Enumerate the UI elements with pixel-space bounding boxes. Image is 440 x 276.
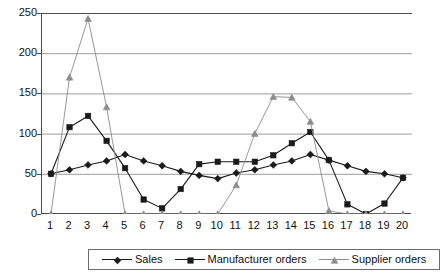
series-line <box>51 19 403 214</box>
y-tick-label-0: 0 <box>3 208 37 219</box>
data-marker-diamond <box>122 151 129 158</box>
data-marker-square <box>187 258 192 263</box>
series-supplier-orders <box>48 15 407 214</box>
data-marker-triangle <box>381 211 388 214</box>
plot-area <box>41 13 411 214</box>
data-marker-square <box>215 159 220 164</box>
y-tick-label-200: 200 <box>3 47 37 58</box>
legend-glyph <box>113 256 122 265</box>
legend-marker-square-icon <box>175 254 205 265</box>
data-marker-triangle <box>196 211 203 214</box>
data-marker-square <box>141 197 146 202</box>
data-marker-diamond <box>307 151 314 158</box>
data-marker-square <box>234 159 239 164</box>
data-marker-square <box>122 165 127 170</box>
data-marker-square <box>67 124 72 129</box>
y-tick-label-100: 100 <box>3 128 37 139</box>
data-marker-diamond <box>196 172 203 179</box>
data-marker-diamond <box>270 162 277 169</box>
series-sales <box>48 151 407 182</box>
legend-label: Sales <box>135 254 163 265</box>
data-marker-triangle <box>103 104 110 110</box>
data-marker-diamond <box>344 162 351 169</box>
y-tick-mark-0 <box>37 214 41 215</box>
legend-label: Manufacturer orders <box>208 254 307 265</box>
legend-label: Supplier orders <box>352 254 427 265</box>
legend-entry-sales: Sales <box>102 254 163 265</box>
data-marker-triangle <box>48 211 55 214</box>
data-marker-diamond <box>114 257 121 264</box>
data-marker-diamond <box>140 158 147 165</box>
data-marker-triangle <box>251 130 258 136</box>
data-marker-square <box>382 201 387 206</box>
y-axis: 050100150200250 <box>0 0 37 276</box>
y-tick-label-50: 50 <box>3 168 37 179</box>
series-canvas <box>42 13 412 214</box>
data-marker-diamond <box>288 158 295 165</box>
legend-glyph <box>186 256 195 265</box>
data-marker-triangle <box>331 257 338 263</box>
x-tick-label-20: 20 <box>389 219 415 231</box>
x-axis: 1234567891011121314151617181920 <box>41 219 411 235</box>
data-marker-triangle <box>233 182 240 188</box>
data-marker-square <box>326 157 331 162</box>
data-marker-diamond <box>381 170 388 177</box>
legend-entry-supplier-orders: Supplier orders <box>319 254 427 265</box>
legend-glyph <box>330 256 339 265</box>
data-marker-square <box>289 141 294 146</box>
data-marker-square <box>85 113 90 118</box>
data-marker-diamond <box>85 162 92 169</box>
data-marker-triangle <box>400 211 407 214</box>
data-marker-square <box>197 161 202 166</box>
data-marker-square <box>48 171 53 176</box>
data-marker-diamond <box>177 168 184 175</box>
data-marker-diamond <box>233 170 240 177</box>
data-marker-triangle <box>140 211 147 214</box>
data-marker-triangle <box>177 211 184 214</box>
data-marker-square <box>345 202 350 207</box>
legend-marker-diamond-icon <box>102 254 132 265</box>
data-marker-square <box>271 153 276 158</box>
y-tick-label-150: 150 <box>3 87 37 98</box>
data-marker-triangle <box>326 207 333 213</box>
data-marker-diamond <box>66 166 73 173</box>
legend-entry-manufacturer-orders: Manufacturer orders <box>175 254 307 265</box>
data-marker-diamond <box>214 175 221 182</box>
data-marker-diamond <box>363 168 370 175</box>
data-marker-triangle <box>85 15 92 21</box>
data-marker-square <box>400 175 405 180</box>
data-marker-square <box>252 159 257 164</box>
data-marker-square <box>178 186 183 191</box>
data-marker-triangle <box>66 74 73 80</box>
data-marker-triangle <box>122 211 129 214</box>
y-tick-label-250: 250 <box>3 7 37 18</box>
data-marker-diamond <box>159 162 166 169</box>
data-marker-diamond <box>251 166 258 173</box>
data-marker-square <box>104 138 109 143</box>
chart-legend: SalesManufacturer ordersSupplier orders <box>88 249 440 270</box>
legend-marker-triangle-icon <box>319 254 349 265</box>
data-marker-diamond <box>103 158 110 165</box>
